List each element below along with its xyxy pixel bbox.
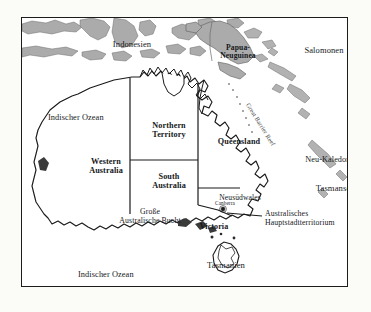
pacific-islands (244, 28, 347, 198)
map-frame: Indonesien Papua- Neuguinea Salomonen Ne… (21, 17, 348, 287)
bass-strait-islets (211, 233, 236, 240)
tasmania-island (213, 242, 239, 273)
canberra-marker (221, 207, 225, 211)
great-barrier-reef-marks (228, 83, 253, 133)
australia-map: Indonesien Papua- Neuguinea Salomonen Ne… (0, 0, 371, 312)
australia-mainland (32, 71, 268, 230)
map-geometry (22, 18, 348, 287)
